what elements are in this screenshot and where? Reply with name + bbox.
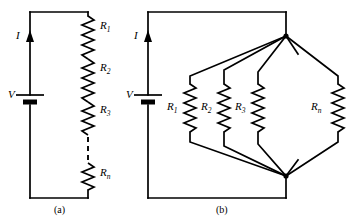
panel-b-source-label: V <box>126 89 133 100</box>
panel-b-current-arrowhead <box>144 30 152 42</box>
panel-a-resistor-rn-symbol <box>82 163 94 190</box>
panel-b-branchn-bottom-wire <box>286 132 338 176</box>
panel-b-resistor-r2-label: R2 <box>201 101 211 115</box>
panel-a-resistor-r1-symbol <box>82 16 94 59</box>
panel-b-bottom-node-dot <box>283 173 288 178</box>
panel-a-current-label: I <box>16 30 20 41</box>
panel-a-current-arrow <box>26 30 34 42</box>
panel-b-resistor-r2-symbol <box>218 84 230 132</box>
panel-a-battery <box>16 95 44 102</box>
panel-b-resistor-r3-label: R3 <box>235 101 245 115</box>
panel-b-resistor-rn-label: Rn <box>311 101 321 115</box>
panel-a-resistor-r1-label: R1 <box>100 20 110 34</box>
panel-b-resistor-r1-symbol <box>184 84 196 132</box>
panel-b-resistor-r1-label: R1 <box>167 101 177 115</box>
panel-a-resistor-r2-label: R2 <box>100 62 110 76</box>
panel-b-top-node-dot <box>283 33 288 38</box>
panel-b-branch2-bottom-wire <box>224 132 286 176</box>
panel-b-current-arrow <box>144 30 152 42</box>
panel-b-current-label: I <box>134 30 138 41</box>
panel-a-source-label: V <box>8 89 15 100</box>
panel-a-resistor-r3-label: R3 <box>100 104 110 118</box>
panel-a-resistor-rn-label: Rn <box>100 167 110 181</box>
panel-a-resistor-r3-symbol <box>82 102 94 135</box>
panel-b-top-node-extra-branch-hint <box>286 36 298 54</box>
panel-b-branchn-top-wire <box>286 36 338 84</box>
circuit-diagram-svg <box>0 0 359 224</box>
panel-a-current-arrowhead <box>26 30 34 42</box>
panel-b-resistor-rn-symbol <box>332 84 344 132</box>
panel-a-caption: (a) <box>54 205 65 215</box>
figure-root: V I R1 R2 R3 Rn (a) V I R1 R2 R3 Rn (b) <box>0 0 359 224</box>
panel-b-resistor-r3-symbol <box>252 84 264 132</box>
panel-a-circuit <box>30 12 88 198</box>
panel-b-bottom-node-extra-branch-hint <box>286 160 298 176</box>
panel-b-branch2-top-wire <box>224 36 286 84</box>
panel-b-caption: (b) <box>216 205 228 215</box>
panel-b-battery <box>134 95 162 102</box>
panel-a-resistor-r2-symbol <box>82 59 94 102</box>
